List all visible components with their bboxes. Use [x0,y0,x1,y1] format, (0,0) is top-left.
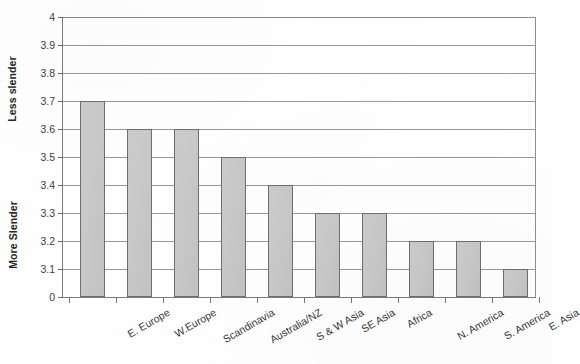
x-axis-tick [445,297,446,303]
y-axis-tick [58,73,63,74]
x-axis-tick [304,297,305,303]
y-axis-tick-label: 3.2 [40,235,55,247]
gridline [63,101,536,102]
bar [221,157,246,297]
x-axis-label: Africa [404,306,433,330]
x-axis-label: W.Europe [172,306,218,339]
x-axis-tick [351,297,352,303]
plot-frame-top-border [63,17,536,18]
y-axis-tick [58,101,63,102]
bar [268,185,293,297]
y-axis-tick-label: 4 [49,11,55,23]
y-axis-tick [58,129,63,130]
y-axis-tick-label: 3.9 [40,39,55,51]
y-axis-tick [58,157,63,158]
x-axis-label: Scandinavia [220,306,276,345]
bar [315,213,340,297]
x-axis-label: E. Asia [546,306,580,333]
bar [456,241,481,297]
plot-area: 43.93.83.73.63.53.43.33.23.10 E. EuropeW… [62,17,536,298]
x-axis-label: E. Europe [125,306,171,340]
x-axis-tick [539,297,540,303]
x-axis-tick [257,297,258,303]
y-axis-tick-label: 3.7 [40,95,55,107]
y-axis-tick-label: 3.5 [40,151,55,163]
y-axis-caption-lower: More Slender [7,189,21,281]
y-axis-tick [58,185,63,186]
x-axis-label: N. America [454,306,504,342]
x-axis-tick [210,297,211,303]
bar [80,101,105,297]
y-axis-tick [58,17,63,18]
bar [362,213,387,297]
y-axis-tick-label: 3.1 [40,263,55,275]
y-axis-caption-upper: Less slender [6,44,20,134]
x-axis-label: SE Asia [358,306,396,335]
x-axis-label: Australia/NZ [267,306,323,345]
bar [503,269,528,297]
y-axis-tick-label: 3.6 [40,123,55,135]
gridline [63,45,536,46]
y-axis-tick [58,241,63,242]
x-axis-tick [492,297,493,303]
y-axis-tick-label: 3.4 [40,179,55,191]
bar [409,241,434,297]
x-axis-tick [398,297,399,303]
y-axis-tick [58,269,63,270]
bar [174,129,199,297]
y-axis-tick-label: 3.8 [40,67,55,79]
x-axis-tick [116,297,117,303]
bar [127,129,152,297]
x-axis-tick [69,297,70,303]
y-axis-tick [58,213,63,214]
x-axis-tick [163,297,164,303]
y-axis-tick [58,45,63,46]
x-axis-label: S. America [501,306,551,342]
gridline [63,73,536,74]
y-axis-tick [58,297,63,298]
y-axis-tick-label: 3.3 [40,207,55,219]
y-axis-tick-label: 0 [49,291,55,303]
